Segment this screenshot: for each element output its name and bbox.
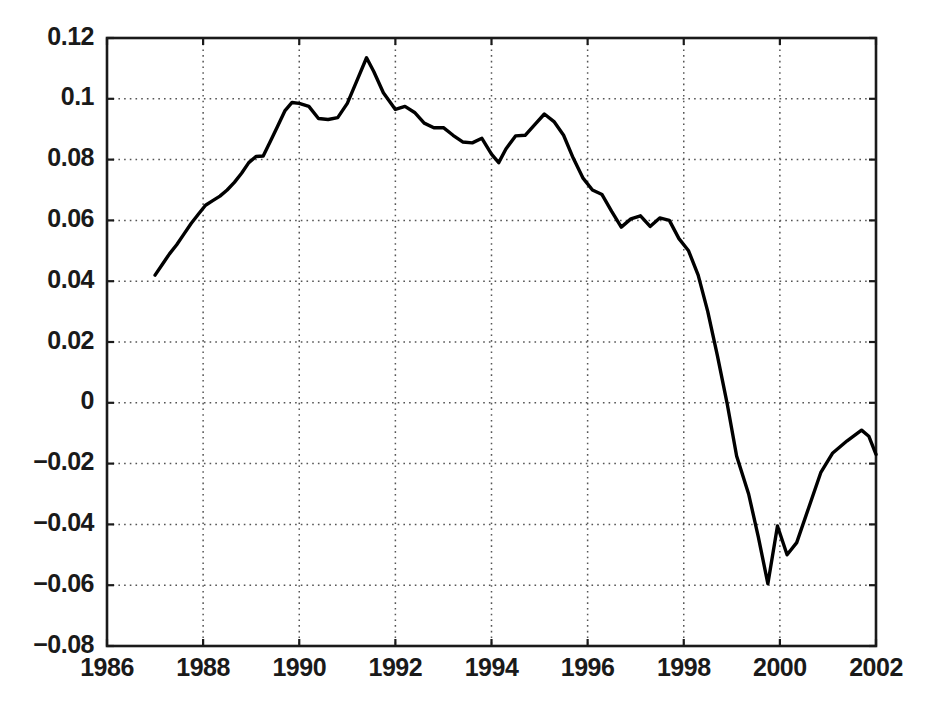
x-axis-tick-label: 1998 (657, 653, 711, 681)
y-axis-tick-label: 0 (81, 386, 94, 414)
x-axis-tick-label: 1992 (369, 653, 423, 681)
y-axis-tick-label: 0.08 (47, 143, 94, 171)
chart-figure: −0.08−0.06−0.04−0.0200.020.040.060.080.1… (0, 0, 937, 714)
x-axis-tick-label: 2000 (753, 653, 807, 681)
chart-svg: −0.08−0.06−0.04−0.0200.020.040.060.080.1… (0, 0, 937, 714)
x-axis-tick-label: 1994 (465, 653, 519, 681)
chart-background (0, 0, 937, 714)
line-chart-canvas: −0.08−0.06−0.04−0.0200.020.040.060.080.1… (0, 0, 937, 714)
y-axis-tick-label: 0.1 (61, 82, 95, 110)
x-axis-tick-label: 1990 (272, 653, 326, 681)
x-axis-tick-label: 1988 (176, 653, 230, 681)
x-axis-tick-label: 1996 (561, 653, 615, 681)
x-axis-tick-labels: 198619881990199219941996199820002002 (80, 653, 903, 681)
x-axis-tick-label: 2002 (849, 653, 903, 681)
y-axis-tick-label: −0.02 (33, 447, 94, 475)
x-axis-tick-label: 1986 (80, 653, 134, 681)
y-axis-tick-label: 0.06 (47, 204, 94, 232)
y-axis-tick-label: 0.02 (47, 326, 94, 354)
y-axis-tick-label: 0.12 (47, 22, 94, 50)
y-axis-tick-label: 0.04 (47, 265, 94, 293)
y-axis-tick-label: −0.06 (33, 569, 94, 597)
y-axis-tick-label: −0.04 (33, 508, 94, 536)
